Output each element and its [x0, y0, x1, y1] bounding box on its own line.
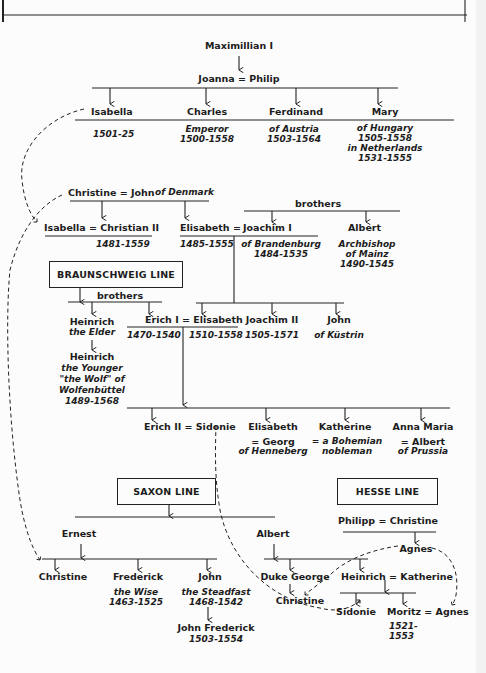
braunschweig-brothers-label: brothers: [97, 290, 143, 301]
person-charles: Charles: [187, 106, 227, 117]
person-sidonie: Sidonie: [336, 606, 376, 617]
anna-maria-spouse-title: of Prussia: [398, 446, 448, 457]
person-albert-mainz: Albert: [348, 222, 381, 233]
frederick-dates: 1463-1525: [109, 597, 163, 608]
hesse-line-box: HESSE LINE: [337, 478, 438, 505]
erich-i-dates: 1470-1540: [127, 330, 181, 341]
mary-regency-dates: 1531-1555: [358, 153, 412, 164]
couple-christine-john: Christine = John: [68, 187, 155, 198]
person-isabella: Isabella: [91, 106, 133, 117]
ferdinand-dates: 1503-1564: [267, 134, 321, 145]
person-john-steadfast: John: [198, 571, 222, 582]
couple-erich-elisabeth: Erich I = Elisabeth: [145, 314, 243, 325]
elisabeth-dates: 1510-1558: [189, 330, 243, 341]
heinrich-younger-seat: Wolfenbüttel: [59, 385, 125, 396]
person-christine-george: Christine: [276, 595, 324, 606]
person-heinrich-elder: Heinrich: [70, 316, 115, 327]
christian-dates: 1481-1559: [96, 239, 150, 250]
heinrich-younger-epithet: "the Wolf" of: [59, 374, 124, 385]
moritz-dates-end: 1553: [389, 631, 414, 642]
isabella-dates: 1501-25: [93, 129, 134, 140]
person-joachim-i: Joachim I: [243, 222, 292, 233]
katherine-spouse-title: nobleman: [322, 446, 372, 457]
person-joachim-ii: Joachim II: [246, 314, 298, 325]
person-elisabeth-henneberg: Elisabeth: [248, 421, 298, 432]
person-mary: Mary: [372, 106, 399, 117]
person-katherine: Katherine: [319, 421, 372, 432]
person-christine-saxon: Christine: [39, 571, 87, 582]
joachim-dates: 1484-1535: [254, 249, 308, 260]
couple-heinrich-katherine: Heinrich = Katherine: [341, 571, 453, 582]
heinrich-younger-dates: 1489-1568: [65, 396, 119, 407]
person-philip: Philip: [249, 73, 279, 84]
person-duke-george: Duke George: [260, 571, 329, 582]
denmark-label: of Denmark: [155, 187, 214, 198]
genealogy-diagram: Maximillian I Joanna = Philip Isabella 1…: [0, 0, 486, 673]
heinrich-elder-title: the Elder: [69, 327, 115, 338]
john-kustrin-title: of Küstrin: [314, 330, 364, 341]
john-steadfast-dates: 1468-1542: [189, 597, 243, 608]
person-ferdinand: Ferdinand: [269, 106, 323, 117]
person-joanna: Joanna: [198, 73, 234, 84]
person-elisabeth-denmark: Elisabeth =: [180, 222, 241, 233]
person-anna-maria: Anna Maria: [393, 421, 454, 432]
couple-philipp-christine: Philipp = Christine: [338, 515, 438, 526]
joachim-ii-dates: 1505-1571: [245, 330, 299, 341]
person-john-kustrin: John: [327, 314, 351, 325]
person-albert-saxon: Albert: [256, 528, 289, 539]
saxon-line-box: SAXON LINE: [117, 478, 216, 505]
heinrich-younger-title: the Younger: [61, 363, 122, 374]
page-edge: [476, 0, 486, 673]
person-frederick: Frederick: [113, 571, 163, 582]
john-frederick-dates: 1503-1554: [189, 634, 243, 645]
elisabeth-denmark-dates: 1485-1555: [180, 239, 234, 250]
person-maximillian: Maximillian I: [205, 40, 273, 51]
couple-moritz-agnes: Moritz = Agnes: [387, 606, 469, 617]
person-heinrich-younger: Heinrich: [70, 351, 115, 362]
person-john-frederick: John Frederick: [177, 622, 254, 633]
braunschweig-line-box: BRAUNSCHWEIG LINE: [49, 261, 183, 288]
person-agnes: Agnes: [399, 543, 432, 554]
couple-isabella-christian: Isabella = Christian II: [44, 222, 159, 233]
elisabeth-spouse-title: of Henneberg: [238, 446, 307, 457]
person-ernest: Ernest: [62, 528, 97, 539]
couple-joanna-philip: Joanna = Philip: [198, 73, 279, 84]
charles-dates: 1500-1558: [180, 134, 234, 145]
marriage-symbol: =: [238, 73, 246, 84]
albert-dates: 1490-1545: [340, 259, 394, 270]
brothers-label: brothers: [295, 198, 341, 209]
couple-erich-ii-sidonie: Erich II = Sidonie: [144, 421, 236, 432]
